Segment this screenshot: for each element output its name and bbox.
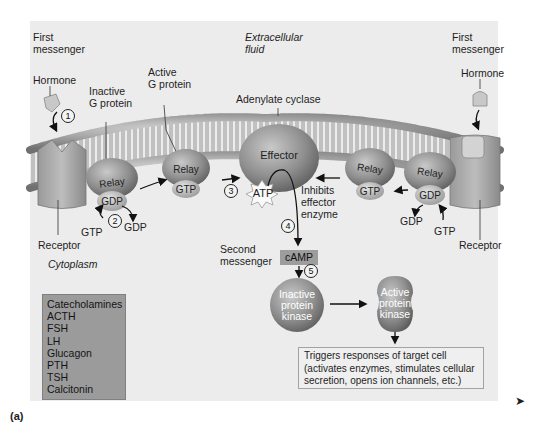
panel-label: (a) — [10, 410, 23, 422]
hormone-item: TSH — [47, 371, 121, 383]
step-4-marker: 4 — [281, 219, 295, 233]
right-receptor — [450, 135, 500, 240]
hormone-item: PTH — [47, 359, 121, 371]
triggers-line-3: secretion, opens ion channels, etc.) — [304, 375, 478, 388]
inhibits-effector-label: Inhibitseffectorenzyme — [301, 184, 338, 220]
gtp-bound-left-label: GTP — [172, 184, 200, 195]
left-hormone-label: Hormone — [33, 74, 76, 86]
triggers-response-box: Triggers responses of target cell (activ… — [298, 347, 484, 389]
right-first-messenger-label: Firstmessenger — [452, 31, 504, 55]
hormone-item: Catecholamines — [47, 298, 121, 310]
hormone-item: LH — [47, 335, 121, 347]
hormone-item: FSH — [47, 322, 121, 334]
inactive-protein-kinase-label: Inactiveproteinkinase — [273, 289, 321, 322]
gdp-out-left-label: GDP — [124, 221, 147, 233]
gtp-in-right-label: GTP — [434, 225, 456, 237]
relay-active-left-label: Relay — [168, 164, 204, 175]
second-messenger-label: Secondmessenger — [220, 243, 272, 267]
extracellular-fluid-label: Extracellularfluid — [245, 31, 303, 55]
right-hormone — [473, 92, 487, 107]
step-3-marker: 3 — [224, 184, 238, 198]
next-arrow-icon[interactable]: ➤ — [515, 395, 525, 407]
gdp-out-right-label: GDP — [400, 215, 423, 227]
active-g-protein-label: ActiveG protein — [148, 66, 191, 90]
right-hormone-label: Hormone — [461, 67, 504, 79]
gdp-bound-right-label: GDP — [415, 190, 445, 201]
hormone-list-box: Catecholamines ACTH FSH LH Glucagon PTH … — [42, 294, 126, 400]
adenylate-cyclase-label: Adenylate cyclase — [236, 93, 321, 105]
step-5-marker: 5 — [304, 264, 318, 278]
inactive-g-protein-label: InactiveG protein — [89, 85, 132, 109]
hormone-item: Glucagon — [47, 347, 121, 359]
right-receptor-label: Receptor — [459, 239, 502, 251]
gdp-bound-left-label: GDP — [97, 196, 127, 207]
left-hormone — [44, 94, 60, 112]
step-1-marker: 1 — [61, 109, 75, 123]
active-protein-kinase-label: Activeproteinkinase — [372, 287, 418, 320]
left-receptor — [38, 140, 86, 235]
cytoplasm-label: Cytoplasm — [48, 258, 98, 270]
hormone-item: ACTH — [47, 310, 121, 322]
left-receptor-label: Receptor — [38, 239, 81, 251]
hormone-item: Calcitonin — [47, 383, 121, 395]
triggers-line-1: Triggers responses of target cell — [304, 350, 478, 363]
gtp-bound-right-label: GTP — [356, 186, 384, 197]
atp-label: ATP — [250, 188, 276, 199]
gtp-in-left-label: GTP — [81, 226, 103, 238]
step-2-marker: 2 — [108, 214, 122, 228]
effector-label: Effector — [259, 150, 299, 161]
camp-box: cAMP — [280, 250, 318, 265]
triggers-line-2: (activates enzymes, stimulates cellular — [304, 363, 478, 376]
left-first-messenger-label: Firstmessenger — [33, 31, 85, 55]
